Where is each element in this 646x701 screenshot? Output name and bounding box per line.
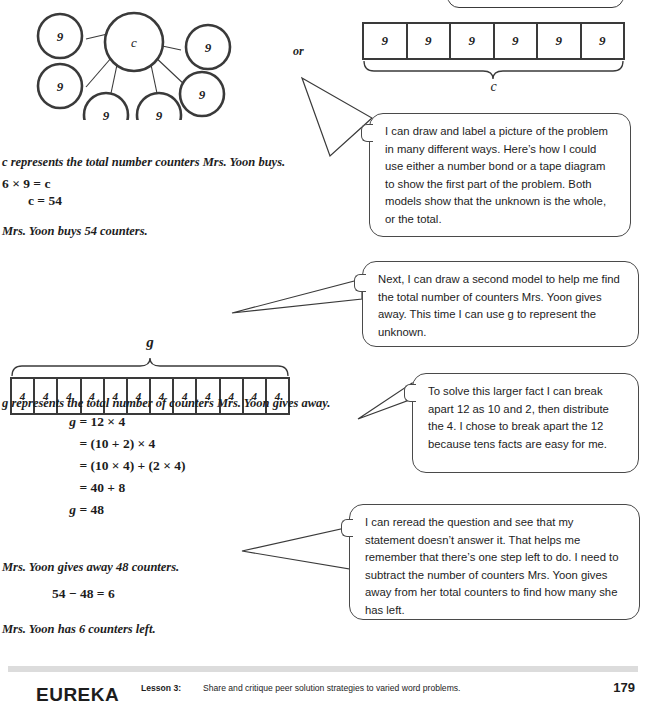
statement-c-variable: c represents the total number counters M… [2,155,285,170]
bubble-notch [361,124,373,142]
equation-g-line: = 40 + 8 [50,480,186,502]
or-label: or [293,44,304,59]
speech-bubble-text: I can draw and label a picture of the pr… [385,125,608,225]
tape-cell: 9 [408,24,452,58]
tape-brace-label: c [362,79,625,95]
lesson-label: Lesson 3: [141,683,181,693]
equation-g-body: = (10 + 2) × 4 [79,436,155,451]
equation-g-lead: g [50,502,76,518]
bubble-notch [341,519,353,537]
number-bond-whole-label: c [131,35,137,50]
number-bond-diagram: c 9 9 9 9 9 9 [18,2,248,120]
equation-g-line: = (10 × 4) + (2 × 4) [50,458,186,480]
equation-c-1: 6 × 9 = c [2,176,50,192]
tape-cell: 9 [495,24,539,58]
equation-g-lead: g [50,414,76,430]
equation-g-line: = (10 + 2) × 4 [50,436,186,458]
number-bond-part-label: 9 [57,79,64,94]
answer-statement-g: Mrs. Yoon gives away 48 counters. [2,560,179,575]
equation-g-line: g = 48 [50,502,186,524]
speech-bubble-2: Next, I can draw a second model to help … [362,261,639,347]
lesson-description: Share and critique peer solution strateg… [203,683,460,693]
bubble-4-pointer [240,525,354,573]
brand-logo: EUREKA [36,684,119,701]
tape-diagram-c: 9 9 9 9 9 9 c [362,22,625,94]
page-footer: EUREKA Lesson 3: Share and critique peer… [0,678,646,701]
tape-brace-label: g [10,334,290,351]
statement-g-variable: g represents the total number of counter… [2,396,331,411]
speech-bubble-text: I can reread the question and see that m… [365,516,619,616]
equation-subtraction: 54 − 48 = 6 [52,586,115,602]
equation-g-block: g = 12 × 4 = (10 + 2) × 4 = (10 × 4) + (… [50,414,186,524]
speech-bubble-text: Next, I can draw a second model to help … [378,273,620,338]
number-bond-part-label: 9 [205,40,212,55]
bubble-2-pointer [230,277,366,319]
equation-g-body: = 12 × 4 [79,414,125,429]
page-number: 179 [613,680,635,695]
tape-cell: 9 [538,24,582,58]
speech-bubble-text: To solve this larger fact I can break ap… [428,385,609,450]
equation-g-body: = 40 + 8 [79,480,125,495]
equation-c-2: c = 54 [28,193,62,209]
answer-statement-c: Mrs. Yoon buys 54 counters. [2,224,148,239]
number-bond-part-label: 9 [156,108,163,120]
tape-cell: 9 [582,24,624,58]
tape-brace-above: g [10,337,290,377]
bubble-1-pointer [300,70,380,160]
equation-g-line: g = 12 × 4 [50,414,186,436]
number-bond-part-label: 9 [199,87,206,102]
worksheet-page: c 9 9 9 9 9 9 or 9 9 9 9 9 9 [0,0,646,701]
equation-g-body: = 48 [79,502,104,517]
tape-cell: 9 [451,24,495,58]
equation-g-body: = (10 × 4) + (2 × 4) [79,458,185,473]
speech-bubble-3: To solve this larger fact I can break ap… [412,373,639,473]
number-bond-part-label: 9 [57,29,64,44]
speech-bubble-cutoff [447,0,624,8]
footer-divider [8,666,638,672]
speech-bubble-1: I can draw and label a picture of the pr… [369,113,631,237]
bubble-notch [404,384,416,402]
tape-cells-row: 9 9 9 9 9 9 [362,22,625,60]
speech-bubble-4: I can reread the question and see that m… [349,504,640,620]
final-answer-statement: Mrs. Yoon has 6 counters left. [2,622,156,637]
tape-brace-below: c [362,60,625,94]
tape-cell: 9 [364,24,408,58]
bubble-notch [354,274,366,292]
number-bond-part-label: 9 [103,108,110,120]
